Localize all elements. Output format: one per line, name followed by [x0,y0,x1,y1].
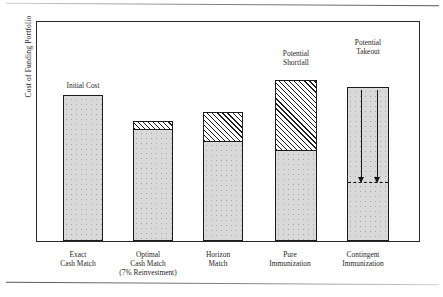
category-label-pure-immunization: Pure Immunization [252,250,328,268]
bar-exact-cash-match [63,95,103,241]
bar-optimal-cash-match [133,121,173,241]
bar-segment-base [348,88,388,240]
plot-frame: Initial Cost Potential Shortfall Potenti… [36,21,420,242]
annotation-potential-takeout: Potential Takeout [338,39,398,56]
bar-segment-base [134,130,172,240]
takeout-floor-dashed-line [348,182,388,183]
page-rule-bottom [6,282,439,286]
bar-segment-base [276,151,316,240]
y-axis-title: Cost of Funding Portfolio [24,0,33,127]
category-label-exact-cash-match: Exact Cash Match [40,250,116,268]
takeout-arrow-right [377,90,378,182]
bar-segment-shortfall [134,122,172,130]
category-label-horizon-match: Horizon Match [184,250,252,268]
category-label-optimal-cash-match: Optimal Cash Match (7% Reinvestment) [106,250,190,278]
category-label-contingent-immunization: Contingent Immunization [322,250,404,268]
bar-segment-shortfall [276,81,316,151]
annotation-initial-cost: Initial Cost [53,82,113,91]
page-rule-top [6,3,439,7]
bar-contingent-immunization [347,87,389,241]
takeout-arrow-left [361,90,362,182]
bar-segment-shortfall [204,113,242,142]
annotation-potential-shortfall: Potential Shortfall [266,50,326,67]
bar-horizon-match [203,112,243,241]
bar-pure-immunization [275,80,317,241]
bar-segment-base [64,96,102,240]
bar-segment-base [204,142,242,240]
